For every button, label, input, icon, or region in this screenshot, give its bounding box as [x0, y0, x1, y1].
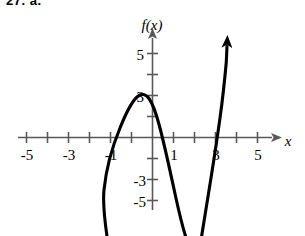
y-axis-tick-labels: 5 3 -3 -5 [134, 47, 147, 210]
x-axis-label: x [284, 133, 292, 149]
x-tick-label-1: 1 [170, 147, 178, 163]
x-tick-label--5: -5 [21, 147, 34, 163]
curve-group [104, 46, 227, 236]
y-axis-label: f(x) [142, 17, 163, 34]
y-tick-label-5: 5 [137, 47, 145, 63]
figure-container: 27. a. [0, 0, 305, 236]
curve-left-branch [104, 94, 186, 236]
x-tick-label-3: 3 [212, 147, 220, 163]
y-tick-label--5: -5 [134, 194, 147, 210]
x-tick-label--3: -3 [63, 147, 76, 163]
y-tick-label--3: -3 [134, 173, 147, 189]
x-axis-tick-labels: -5 -3 -1 1 3 5 [21, 147, 262, 163]
function-graph: -5 -3 -1 1 3 5 5 3 -3 -5 f(x) x [0, 0, 305, 236]
x-tick-label--1: -1 [105, 147, 118, 163]
curve-right-branch [201, 46, 227, 236]
x-tick-label-5: 5 [254, 147, 262, 163]
y-tick-label-3: 3 [137, 89, 145, 105]
